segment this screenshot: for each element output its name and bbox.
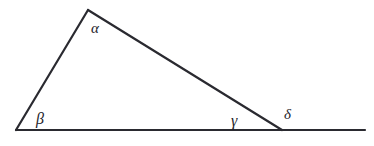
angle-label-alpha: α (91, 20, 100, 36)
angle-label-beta: β (35, 110, 44, 128)
figure-background (0, 0, 374, 146)
geometry-figure: α β γ δ (0, 0, 374, 146)
angle-label-gamma: γ (231, 112, 238, 130)
angle-label-delta: δ (284, 106, 292, 122)
triangle-diagram-svg: α β γ δ (0, 0, 374, 146)
